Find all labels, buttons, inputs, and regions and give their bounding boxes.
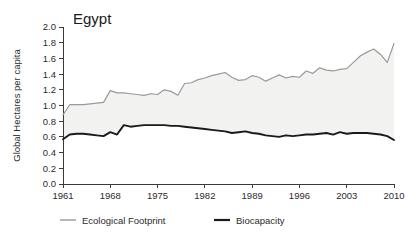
line-area-chart: 0.00.20.40.60.81.01.21.41.61.82.0 196119… — [0, 0, 412, 237]
y-tick-label: 2.0 — [43, 21, 56, 32]
x-tick-label: 1961 — [52, 190, 73, 201]
x-tick-label: 2003 — [336, 190, 357, 201]
legend-label[interactable]: Biocapacity — [236, 215, 285, 226]
x-tick-label: 1996 — [289, 190, 310, 201]
y-tick-label: 1.6 — [43, 53, 56, 64]
x-tick-label: 2010 — [383, 190, 404, 201]
legend-label[interactable]: Ecological Footprint — [82, 215, 166, 226]
x-axis-tick-labels: 19611968197519821989199620032010 — [52, 190, 404, 201]
y-tick-label: 1.8 — [43, 37, 56, 48]
y-tick-label: 0.8 — [43, 116, 56, 127]
y-axis-title: Global Hectares per capita — [11, 49, 22, 162]
x-tick-label: 1968 — [100, 190, 121, 201]
chart-container: 0.00.20.40.60.81.01.21.41.61.82.0 196119… — [0, 0, 412, 237]
x-tick-label: 1982 — [194, 190, 215, 201]
x-tick-label: 1989 — [242, 190, 263, 201]
y-tick-label: 1.2 — [43, 84, 56, 95]
chart-legend: Ecological FootprintBiocapacity — [60, 215, 285, 226]
chart-title: Egypt — [73, 10, 112, 27]
y-tick-label: 1.0 — [43, 100, 56, 111]
y-tick-label: 0.6 — [43, 131, 56, 142]
x-tick-label: 1975 — [147, 190, 168, 201]
y-tick-label: 1.4 — [43, 69, 56, 80]
y-tick-label: 0.2 — [43, 163, 56, 174]
y-tick-label: 0.0 — [43, 178, 56, 189]
y-tick-label: 0.4 — [43, 147, 56, 158]
y-axis-tick-labels: 0.00.20.40.60.81.01.21.41.61.82.0 — [43, 21, 56, 189]
